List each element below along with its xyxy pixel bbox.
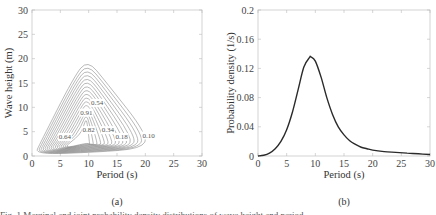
x-tick-label: 25 <box>169 158 179 169</box>
y-tick-label: 15 <box>18 78 28 89</box>
panel-a-contour-plot: 051015202530051015202530 0.540.910.820.3… <box>3 5 207 209</box>
contour-label: 0.18 <box>115 133 128 141</box>
figure-caption: Fig. 1 Marginal and joint probability de… <box>0 210 304 215</box>
x-tick-label: 0 <box>30 158 35 169</box>
x-tick-label: 5 <box>58 158 63 169</box>
y-tick-label: 0 <box>23 151 28 162</box>
contour-label: 0.34 <box>102 126 115 134</box>
x-tick-label: 20 <box>140 158 150 169</box>
contour-label: 0.54 <box>91 99 104 107</box>
axis-ticks-b: 05101520253000.040.080.120.160.2 <box>237 5 436 170</box>
x-tick-label: 15 <box>112 158 122 169</box>
x-tick-label: 20 <box>368 158 378 169</box>
x-axis-label-b: Period (s) <box>323 169 365 181</box>
y-tick-label: 0.2 <box>242 5 255 16</box>
y-tick-label: 20 <box>18 53 28 64</box>
x-tick-label: 30 <box>197 158 207 169</box>
x-tick-label: 10 <box>84 158 94 169</box>
y-tick-label: 10 <box>18 102 28 113</box>
x-tick-label: 25 <box>396 158 406 169</box>
y-tick-label: 5 <box>23 126 28 137</box>
contour-label: 0.10 <box>143 132 156 140</box>
y-axis-label-b: Probability density (1/s) <box>225 32 237 134</box>
panel-b-line-plot: 05101520253000.040.080.120.160.2 Period … <box>225 5 435 209</box>
y-tick-label: 0.08 <box>237 92 255 103</box>
x-tick-label: 30 <box>425 158 435 169</box>
x-axis-label-a: Period (s) <box>96 169 138 181</box>
y-tick-label: 30 <box>18 5 28 16</box>
contour-label: 0.82 <box>83 126 96 134</box>
contour-label: 0.64 <box>59 133 72 141</box>
x-tick-label: 0 <box>256 158 261 169</box>
y-tick-label: 0 <box>249 151 254 162</box>
x-tick-label: 10 <box>310 158 320 169</box>
axis-ticks-a: 051015202530051015202530 <box>18 5 207 170</box>
pdf-curve <box>258 56 430 156</box>
y-tick-label: 0.12 <box>237 63 255 74</box>
y-tick-label: 0.16 <box>237 34 255 45</box>
subcaption-b: (b) <box>338 196 350 208</box>
subcaption-a: (a) <box>111 196 122 208</box>
x-tick-label: 5 <box>284 158 289 169</box>
contour-label: 0.91 <box>80 109 93 117</box>
y-tick-label: 25 <box>18 29 28 40</box>
y-axis-label-a: Wave height (m) <box>3 47 15 118</box>
x-tick-label: 15 <box>339 158 349 169</box>
figure: 051015202530051015202530 0.540.910.820.3… <box>0 0 436 215</box>
y-tick-label: 0.04 <box>237 121 255 132</box>
